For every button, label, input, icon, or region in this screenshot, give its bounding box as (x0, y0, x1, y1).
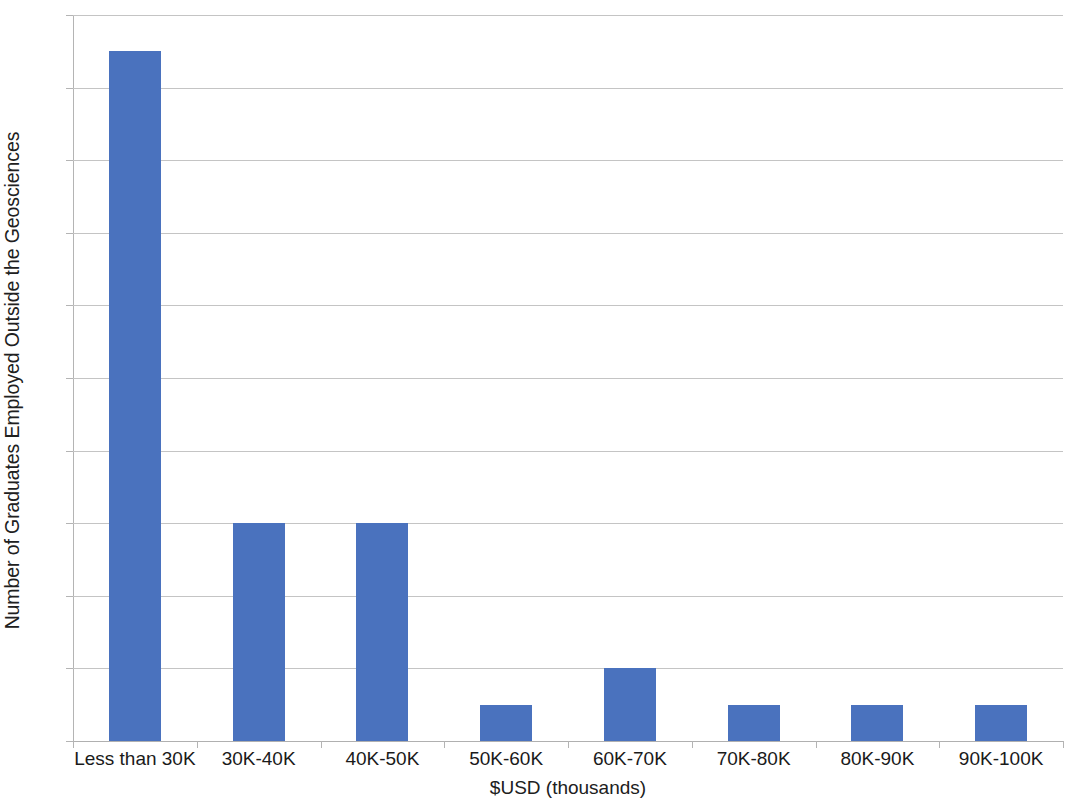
bar (851, 705, 903, 741)
gridline (73, 88, 1063, 89)
bar (480, 705, 532, 741)
gridline (73, 305, 1063, 306)
y-axis-tick-mark (66, 160, 73, 161)
x-axis-tick-label: 80K-90K (840, 748, 914, 770)
gridline (73, 668, 1063, 669)
bar (356, 523, 408, 741)
y-axis-tick-mark (66, 596, 73, 597)
x-axis-tick-label: 60K-70K (593, 748, 667, 770)
x-axis-tick-mark (692, 741, 693, 748)
bar (604, 668, 656, 741)
x-axis-tick-label: 30K-40K (222, 748, 296, 770)
gridline (73, 378, 1063, 379)
x-axis-tick-label: Less than 30K (74, 748, 195, 770)
y-axis-title-text: Number of Graduates Employed Outside the… (2, 131, 25, 629)
x-axis-tick-label: 90K-100K (959, 748, 1044, 770)
x-axis-tick-label: 70K-80K (717, 748, 791, 770)
bar (728, 705, 780, 741)
x-axis-tick-mark (816, 741, 817, 748)
gridline (73, 451, 1063, 452)
bar (109, 51, 161, 741)
x-axis-title: $USD (thousands) (73, 777, 1063, 799)
x-axis-tick-mark (939, 741, 940, 748)
x-axis-tick-mark (321, 741, 322, 748)
y-axis-tick-mark (66, 88, 73, 89)
bar-chart: Number of Graduates Employed Outside the… (0, 0, 1069, 807)
gridline (73, 160, 1063, 161)
y-axis-title: Number of Graduates Employed Outside the… (0, 0, 26, 760)
bar (975, 705, 1027, 741)
gridline (73, 233, 1063, 234)
x-axis-tick-label: 50K-60K (469, 748, 543, 770)
y-axis-tick-mark (66, 523, 73, 524)
plot-area (73, 15, 1063, 741)
y-axis-tick-mark (66, 15, 73, 16)
x-axis-tick-mark (197, 741, 198, 748)
x-axis-tick-mark (444, 741, 445, 748)
gridline (73, 523, 1063, 524)
gridline (73, 15, 1063, 16)
x-axis-tick-mark (568, 741, 569, 748)
y-axis-tick-mark (66, 305, 73, 306)
y-axis-tick-mark (66, 741, 73, 742)
y-axis-tick-mark (66, 378, 73, 379)
y-axis-tick-mark (66, 451, 73, 452)
x-axis-tick-mark (1063, 741, 1064, 748)
bar (233, 523, 285, 741)
y-axis-tick-mark (66, 233, 73, 234)
y-axis-tick-mark (66, 668, 73, 669)
x-axis-tick-mark (73, 741, 74, 748)
x-axis-tick-label: 40K-50K (345, 748, 419, 770)
gridline (73, 596, 1063, 597)
